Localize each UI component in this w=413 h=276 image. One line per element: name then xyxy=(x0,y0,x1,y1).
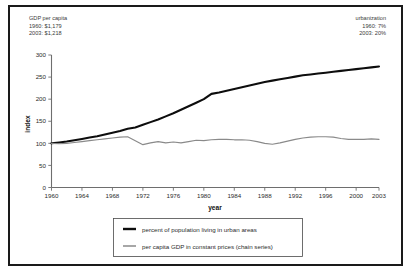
y-tick-label: 300 xyxy=(36,51,47,58)
annotation-urbanization-1960: 1960: 7% xyxy=(362,23,386,29)
annotation-gdp-title: GDP per capita xyxy=(29,15,68,21)
annotation-urbanization-2003: 2003: 20% xyxy=(359,30,386,36)
series-line-urban xyxy=(52,66,380,143)
legend-label-urban: percent of population living in urban ar… xyxy=(142,226,257,233)
x-axis-title: year xyxy=(208,204,222,212)
x-tick-label: 1972 xyxy=(136,192,150,199)
series-line-gdp xyxy=(52,137,380,145)
x-tick-label: 1980 xyxy=(197,192,211,199)
y-tick-label: 150 xyxy=(36,117,47,124)
x-tick-label: 1992 xyxy=(288,192,302,199)
annotation-gdp-per-capita: GDP per capita 1960: $1,179 2003: $1,218 xyxy=(29,15,68,36)
x-tick-label: 1968 xyxy=(106,192,120,199)
x-tick-label: 1964 xyxy=(75,192,89,199)
legend-label-gdp: per capita GDP in constant prices (chain… xyxy=(142,243,273,250)
annotation-gdp-2003: 2003: $1,218 xyxy=(29,30,62,36)
x-tick-label: 1960 xyxy=(45,192,59,199)
y-tick-label: 0 xyxy=(43,184,47,191)
x-tick-label: 1988 xyxy=(258,192,272,199)
x-tick-label: 1976 xyxy=(166,192,180,199)
y-tick-label: 50 xyxy=(39,162,46,169)
x-tick-label: 1984 xyxy=(227,192,241,199)
axes xyxy=(52,55,380,188)
y-tick-label: 250 xyxy=(36,73,47,80)
legend: percent of population living in urban ar… xyxy=(114,219,303,257)
x-tick-label: 2000 xyxy=(349,192,363,199)
y-tick-label: 100 xyxy=(36,140,47,147)
y-tick-label: 200 xyxy=(36,95,47,102)
data-series-group xyxy=(52,66,380,144)
annotation-gdp-1960: 1960: $1,179 xyxy=(29,23,62,29)
annotation-urbanization: urbanization 1960: 7% 2003: 20% xyxy=(356,15,387,36)
y-axis-title: index xyxy=(24,115,31,133)
x-tick-label: 2003 xyxy=(372,192,386,199)
figure-screenshot: GDP per capita 1960: $1,179 2003: $1,218… xyxy=(0,0,413,276)
annotation-urbanization-title: urbanization xyxy=(356,15,386,21)
legend-border xyxy=(114,219,303,257)
y-axis-ticks: 050100150200250300 xyxy=(36,51,52,191)
x-tick-label: 1996 xyxy=(319,192,333,199)
x-axis-ticks: 1960196419681972197619801984198819921996… xyxy=(45,188,387,200)
line-chart: GDP per capita 1960: $1,179 2003: $1,218… xyxy=(0,0,413,276)
